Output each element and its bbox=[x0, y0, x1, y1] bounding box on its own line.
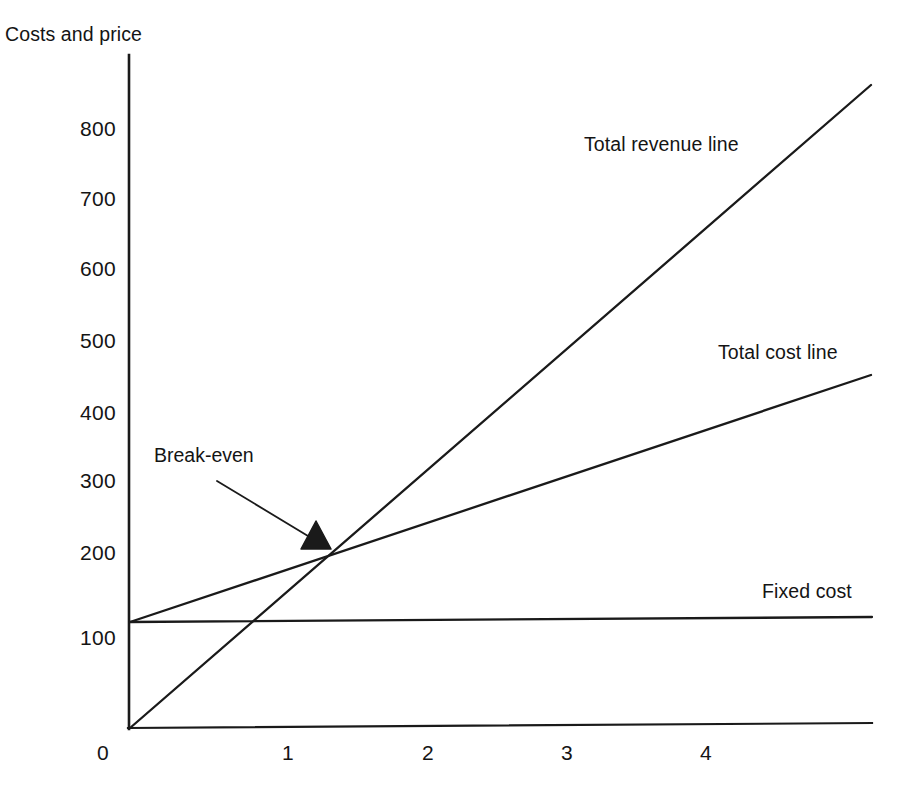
x-tick-label-3: 3 bbox=[537, 742, 597, 763]
fixed-cost-line bbox=[130, 617, 872, 622]
x-tick-label-4: 4 bbox=[676, 742, 736, 763]
series-label-total-revenue: Total revenue line bbox=[584, 135, 739, 155]
x-tick-label-2: 2 bbox=[398, 742, 458, 763]
y-tick-label-600: 600 bbox=[6, 258, 116, 279]
y-axis-title: Costs and price bbox=[5, 25, 142, 45]
x-tick-label-0: 0 bbox=[73, 742, 133, 763]
y-tick-label-700: 700 bbox=[6, 188, 116, 209]
series-label-total-cost: Total cost line bbox=[718, 343, 838, 363]
chart-canvas bbox=[0, 0, 897, 794]
total-cost-line bbox=[130, 375, 871, 622]
breakeven-chart-page: Costs and price 800 700 600 500 400 300 … bbox=[0, 0, 897, 794]
y-tick-label-300: 300 bbox=[6, 470, 116, 491]
breakeven-leader-line bbox=[217, 481, 308, 536]
total-revenue-line bbox=[130, 85, 871, 728]
x-axis-line bbox=[128, 723, 872, 728]
y-tick-label-400: 400 bbox=[6, 402, 116, 423]
y-tick-label-200: 200 bbox=[6, 542, 116, 563]
y-tick-label-800: 800 bbox=[6, 118, 116, 139]
annotation-label-breakeven: Break-even bbox=[154, 446, 254, 466]
series-label-fixed-cost: Fixed cost bbox=[762, 582, 852, 602]
x-tick-label-1: 1 bbox=[258, 742, 318, 763]
y-tick-label-100: 100 bbox=[6, 627, 116, 648]
y-tick-label-500: 500 bbox=[6, 330, 116, 351]
